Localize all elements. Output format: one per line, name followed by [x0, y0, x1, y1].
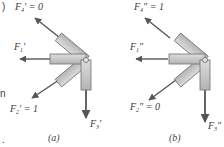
label-f4-b: F4″ = 1	[134, 2, 164, 15]
member-3-a	[81, 60, 91, 90]
label-f3-b: F3″	[208, 121, 221, 134]
force-arrow-f2-b	[149, 80, 176, 100]
label-f2-b: F2″ = 0	[130, 102, 160, 115]
member-1-a	[50, 54, 86, 64]
member-3-b	[200, 60, 210, 90]
label-f1-b: F1″	[130, 42, 143, 55]
caption-b: (b)	[169, 132, 181, 143]
joint-pin-b	[203, 58, 208, 63]
label-f1-a: F1′	[14, 42, 25, 55]
label-f3-a: F3′	[90, 119, 101, 132]
label-f4-a: F4′ = 0	[15, 2, 43, 15]
force-arrow-f2-a	[32, 80, 59, 98]
caption-a: (a)	[48, 132, 60, 143]
truss-joint-diagrams	[0, 0, 224, 147]
joint-pin-a	[84, 58, 89, 63]
force-arrow-f4-b	[145, 18, 170, 38]
force-arrow-f4-a	[35, 18, 60, 38]
label-f2-a: F2′ = 1	[10, 104, 38, 117]
